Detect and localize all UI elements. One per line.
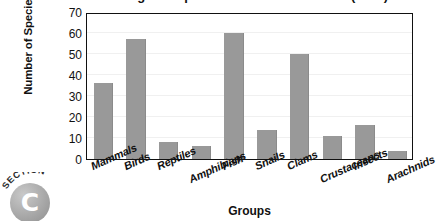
y-axis-tick-label: 70	[56, 7, 82, 19]
bar-crustaceans	[323, 136, 342, 159]
section-badge-letter: C	[10, 183, 50, 221]
bar-arachnids	[388, 151, 407, 159]
bars-group	[87, 14, 412, 159]
x-axis-title: Groups	[86, 204, 413, 218]
x-axis-tick-labels: MammalsBirdsReptilesAmphibiansFishSnails…	[86, 161, 413, 205]
y-axis-tick-label: 20	[56, 112, 82, 124]
y-axis-tick-labels: 706050403020100	[56, 13, 82, 160]
y-axis-tick-label: 60	[56, 28, 82, 40]
section-badge: SECTION C	[1, 172, 63, 221]
bar-clams	[290, 54, 309, 159]
y-axis-tick-label: 30	[56, 91, 82, 103]
y-axis-title: Number of Species	[22, 0, 34, 103]
chart-title: Endangered Species of the United States …	[70, 0, 416, 4]
plot-area	[86, 13, 413, 160]
y-axis-tick-label: 10	[56, 133, 82, 145]
bar-birds	[126, 39, 145, 159]
bar-fish	[224, 33, 243, 159]
y-axis-tick-label: 50	[56, 49, 82, 61]
section-badge-circle: C	[10, 183, 50, 221]
bar-mammals	[94, 83, 113, 159]
y-axis-tick-label: 40	[56, 70, 82, 82]
y-axis-tick-label: 0	[56, 154, 82, 166]
